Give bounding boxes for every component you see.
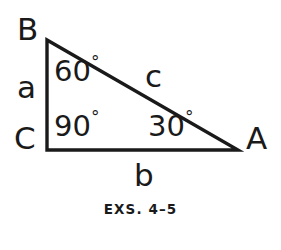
side-label-b: b xyxy=(134,160,154,191)
degree-symbol-icon: ° xyxy=(185,107,194,127)
triangle-figure: B C A a c b 60° 90° 30° EXS. 4–5 xyxy=(0,0,281,250)
vertex-label-c: C xyxy=(14,123,36,154)
vertex-label-a: A xyxy=(246,123,267,154)
angle-label-b: 60° xyxy=(54,57,99,86)
degree-symbol-icon: ° xyxy=(91,52,100,72)
angle-c-value: 90 xyxy=(54,109,91,143)
angle-label-a: 30° xyxy=(148,112,193,141)
degree-symbol-icon: ° xyxy=(91,107,100,127)
angle-label-c: 90° xyxy=(54,112,99,141)
vertex-label-b: B xyxy=(17,14,38,45)
side-label-a: a xyxy=(17,72,36,103)
angle-b-value: 60 xyxy=(54,54,91,88)
side-label-c: c xyxy=(145,61,162,92)
angle-a-value: 30 xyxy=(148,109,185,143)
figure-caption: EXS. 4–5 xyxy=(0,201,281,217)
